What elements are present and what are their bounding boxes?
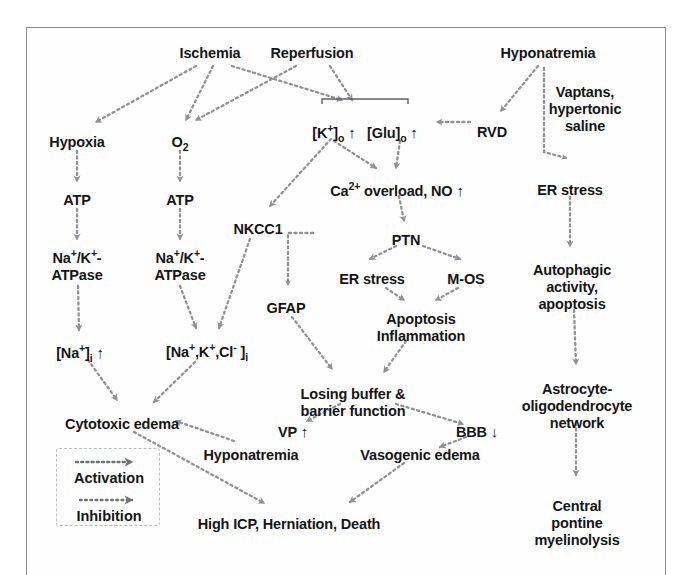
node-m-os: M-OS xyxy=(447,271,484,288)
node-nak-atpase-2: Na+/K+- ATPase xyxy=(154,250,205,284)
node-k-glu: [K+]o ↑ [Glu]o ↑ xyxy=(312,124,417,142)
node-high-icp: High ICP, Herniation, Death xyxy=(198,516,381,533)
node-astrocyte-network: Astrocyte- oligodendrocyte network xyxy=(522,381,633,432)
node-na-i: [Na+]i ↑ xyxy=(56,344,104,362)
node-hyponatremia-top: Hyponatremia xyxy=(501,45,596,62)
node-losing-buffer: Losing buffer & barrier function xyxy=(301,386,406,420)
legend-activation: Activation xyxy=(57,455,161,487)
node-atp-2: ATP xyxy=(166,192,193,209)
node-nakcl-i: [Na+,K+,Cl- ]i xyxy=(166,344,248,361)
node-ptn: PTN xyxy=(392,232,421,249)
node-hypoxia: Hypoxia xyxy=(49,134,104,151)
node-vp: VP ↑ xyxy=(278,423,308,441)
node-nak-atpase-1: Na+/K+- ATPase xyxy=(51,250,102,284)
node-nkcc1: NKCC1 xyxy=(233,221,282,238)
node-ischemia: Ischemia xyxy=(180,45,241,62)
node-gfap: GFAP xyxy=(267,300,306,317)
node-er-stress-right: ER stress xyxy=(537,182,603,199)
legend-inhibition: Inhibition xyxy=(57,493,161,525)
node-cytotoxic-edema: Cytotoxic edema xyxy=(65,416,179,433)
node-apoptosis-inflammation: Apoptosis Inflammation xyxy=(377,311,465,345)
node-rvd: RVD xyxy=(477,124,507,141)
node-vasogenic-edema: Vasogenic edema xyxy=(360,447,479,464)
legend-inhibition-label: Inhibition xyxy=(76,508,141,524)
node-er-stress-mid: ER stress xyxy=(339,271,405,288)
node-atp-1: ATP xyxy=(63,192,90,209)
node-vaptans: Vaptans, hypertonic saline xyxy=(549,84,622,135)
node-central-pontine-myelinolysis: Central pontine myelinolysis xyxy=(526,498,628,549)
node-hyponatremia-bottom: Hyponatremia xyxy=(204,447,299,464)
legend-activation-label: Activation xyxy=(74,470,144,486)
node-bbb: BBB ↓ xyxy=(456,423,498,441)
legend: Activation Inhibition xyxy=(56,448,160,526)
node-reperfusion: Reperfusion xyxy=(271,45,354,62)
node-autophagic: Autophagic activity, apoptosis xyxy=(533,262,611,313)
inhibition-arrow-icon xyxy=(70,493,148,506)
activation-arrow-icon xyxy=(70,455,148,468)
node-ca-overload-no: Ca2+ overload, NO ↑ xyxy=(330,182,463,200)
node-o2: O2 xyxy=(172,134,189,151)
